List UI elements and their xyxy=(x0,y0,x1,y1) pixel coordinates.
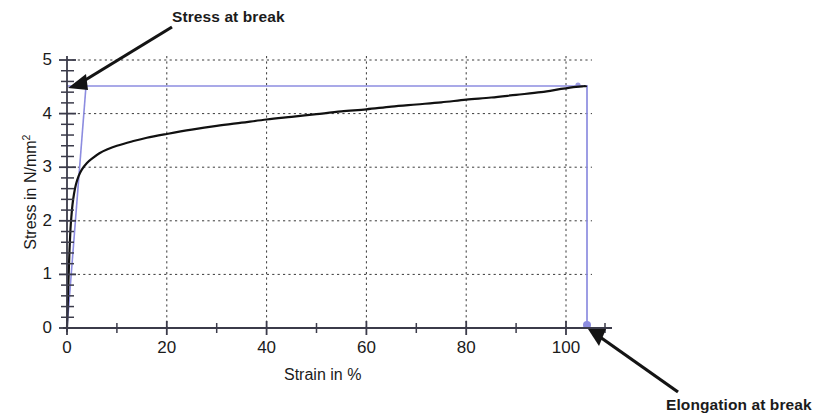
y-tick-label-3: 3 xyxy=(26,157,52,177)
x-tick-label-60: 60 xyxy=(346,338,386,358)
x-tick-label-20: 20 xyxy=(147,338,187,358)
elongation-at-break-label: Elongation at break xyxy=(666,396,812,414)
y-tick-label-2: 2 xyxy=(26,211,52,231)
x-tick-label-100: 100 xyxy=(546,338,586,358)
stress-at-break-label: Stress at break xyxy=(172,8,285,26)
x-tick-label-40: 40 xyxy=(247,338,287,358)
stress-strain-curve xyxy=(67,86,586,328)
stress-at-break-arrow xyxy=(68,27,172,90)
y-tick-label-4: 4 xyxy=(26,104,52,124)
chart-canvas xyxy=(0,0,839,418)
y-tick-label-1: 1 xyxy=(26,264,52,284)
modulus-tangent-line xyxy=(67,86,86,328)
y-tick-label-0: 0 xyxy=(26,318,52,338)
horizontal-gridlines xyxy=(67,60,592,274)
y-axis-title-superscript: 2 xyxy=(20,135,32,141)
x-tick-label-80: 80 xyxy=(446,338,486,358)
y-tick-label-5: 5 xyxy=(26,50,52,70)
elongation-at-break-arrow xyxy=(588,329,678,392)
stress-strain-chart: Stress at break Elongation at break Stra… xyxy=(0,0,839,418)
x-axis-title: Strain in % xyxy=(284,366,361,384)
x-tick-label-0: 0 xyxy=(47,338,87,358)
